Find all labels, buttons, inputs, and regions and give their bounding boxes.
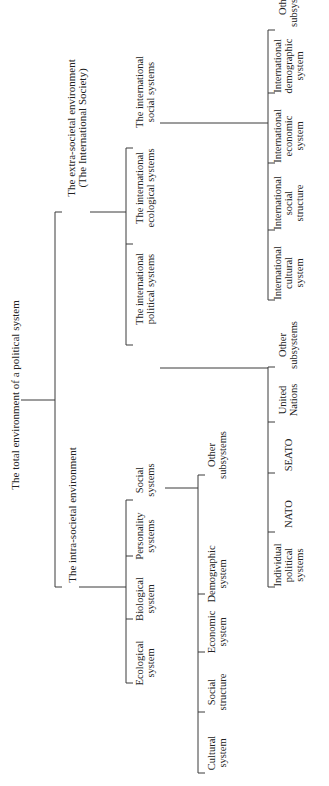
root-node-label-line-0: The total environment of a political sys… [9,300,21,490]
intl-social-structure-label-line-0: International [272,176,283,230]
svg-text:Othersubsystems: Othersubsystems [277,321,299,369]
intra-societal-label: The intra-societal environment [66,447,78,583]
extra-societal-label: The extra-societal environment(The Inter… [65,59,89,196]
svg-text:Ecologicalsystem: Ecologicalsystem [134,640,156,685]
ecological-system-label-line-1: system [145,648,156,677]
intl-social-systems-label: The internationalsocial systems [134,56,156,128]
social-systems-label-line-1: systems [145,463,156,496]
economic-system-label: Economicsystem [206,610,228,653]
intl-political-other-subsystems-label: Othersubsystems [277,321,299,369]
root-node-label: The total environment of a political sys… [9,300,21,490]
svg-text:Internationalsocialstructure: Internationalsocialstructure [272,176,305,230]
intl-social-structure-label-line-2: structure [294,184,305,221]
intl-political-other-subsystems-label-line-1: subsystems [288,321,299,369]
economic-system-label-line-0: Economic [206,610,217,653]
svg-text:NATO: NATO [283,500,294,528]
svg-text:Othersubsystems: Othersubsystems [206,431,228,479]
svg-text:Internationaleconomicsystem: Internationaleconomicsystem [272,109,305,163]
social-structure-label-line-1: structure [217,673,228,710]
personality-systems-label-line-1: systems [145,519,156,552]
other-subsystems-label-line-1: subsystems [217,431,228,479]
nato-label: NATO [283,500,294,528]
seato-label: SEATO [283,438,294,471]
economic-system-label-line-1: system [217,617,228,646]
svg-text:The intra-societal environment: The intra-societal environment [66,447,78,583]
intra-societal-label-line-0: The intra-societal environment [66,447,78,583]
intl-economic-system-label-line-1: economic [283,115,294,156]
intl-social-structure-label-line-1: social [283,191,294,216]
united-nations-label-line-1: Nations [288,384,299,417]
intl-cultural-system-label-line-1: cultural [283,257,294,289]
svg-text:SEATO: SEATO [283,438,294,471]
social-structure-label-line-0: Social [206,679,217,705]
intl-demographic-system-label-line-2: system [294,51,305,80]
cultural-system-label-line-1: system [217,738,228,767]
individual-political-systems-label-line-1: political [283,548,294,582]
svg-text:Socialstructure: Socialstructure [206,673,228,710]
individual-political-systems-label-line-2: systems [294,548,305,581]
individual-political-systems-label-line-0: Individual [272,543,283,586]
extra-societal-label-line-1: (The International Society) [76,68,89,187]
personality-systems-label-line-0: Personality [134,512,145,560]
svg-text:The extra-societal environment: The extra-societal environment(The Inter… [65,59,89,196]
intl-economic-system-label-line-0: International [272,109,283,163]
svg-text:Othersubsystems: Othersubsystems [277,0,299,27]
intl-demographic-system-label-line-1: demographic [283,38,294,93]
intl-social-systems-label-line-1: social systems [145,62,156,122]
cultural-system-label-line-0: Cultural [206,736,217,770]
svg-text:Internationalculturalsystem: Internationalculturalsystem [272,246,305,300]
intl-social-other-subsystems-label-line-1: subsystems [288,0,299,27]
svg-text:The internationalecological sy: The internationalecological systems [134,148,156,227]
biological-system-label: Biologicalsystem [134,577,156,621]
personality-systems-label: Personalitysystems [134,512,156,560]
intl-ecological-systems-label-line-0: The international [134,152,145,224]
demographic-system-label-line-0: Demographic [206,545,217,602]
intl-social-structure-label: Internationalsocialstructure [272,176,305,230]
intl-ecological-systems-label: The internationalecological systems [134,148,156,227]
social-systems-label: Socialsystems [134,463,156,496]
cultural-system-label: Culturalsystem [206,736,228,770]
intl-political-systems-label-line-0: The international [134,253,145,325]
intl-social-other-subsystems-label-line-0: Other [277,0,288,15]
svg-text:Internationaldemographicsystem: Internationaldemographicsystem [272,38,305,93]
intl-social-other-subsystems-label: Othersubsystems [277,0,299,27]
biological-system-label-line-0: Biological [134,577,145,621]
svg-text:Socialsystems: Socialsystems [134,463,156,496]
intl-cultural-system-label-line-0: International [272,246,283,300]
ecological-system-label: Ecologicalsystem [134,640,156,685]
biological-system-label-line-1: system [145,584,156,613]
intl-ecological-systems-label-line-1: ecological systems [145,148,156,227]
svg-text:Economicsystem: Economicsystem [206,610,228,653]
intl-cultural-system-label-line-2: system [294,258,305,287]
ecological-system-label-line-0: Ecological [134,640,145,685]
svg-text:The internationalsocial system: The internationalsocial systems [134,56,156,128]
social-structure-label: Socialstructure [206,673,228,710]
intl-economic-system-label: Internationaleconomicsystem [272,109,305,163]
political-environment-tree: The total environment of a political sys… [0,0,329,786]
intl-political-systems-label: The internationalpolitical systems [134,253,156,325]
intl-social-systems-label-line-0: The international [134,56,145,128]
svg-text:The total environment of a pol: The total environment of a political sys… [9,300,21,490]
intl-economic-system-label-line-2: system [294,121,305,150]
intl-political-other-subsystems-label-line-0: Other [277,333,288,357]
nato-label-line-0: NATO [283,500,294,528]
svg-text:Demographicsystem: Demographicsystem [206,545,228,602]
svg-text:The internationalpolitical sys: The internationalpolitical systems [134,253,156,325]
intl-cultural-system-label: Internationalculturalsystem [272,246,305,300]
united-nations-label-line-0: United [277,385,288,414]
other-subsystems-label-line-0: Other [206,443,217,467]
demographic-system-label: Demographicsystem [206,545,228,602]
seato-label-line-0: SEATO [283,438,294,471]
social-systems-label-line-0: Social [134,467,145,493]
node-labels: The total environment of a political sys… [9,0,305,770]
svg-text:Biologicalsystem: Biologicalsystem [134,577,156,621]
svg-text:Personalitysystems: Personalitysystems [134,512,156,560]
individual-political-systems-label: Individualpoliticalsystems [272,543,305,586]
intl-political-systems-label-line-1: political systems [145,254,156,324]
intl-demographic-system-label: Internationaldemographicsystem [272,38,305,93]
intl-demographic-system-label-line-0: International [272,39,283,93]
demographic-system-label-line-1: system [217,559,228,588]
svg-text:Culturalsystem: Culturalsystem [206,736,228,770]
united-nations-label: UnitedNations [277,384,299,417]
other-subsystems-label: Othersubsystems [206,431,228,479]
